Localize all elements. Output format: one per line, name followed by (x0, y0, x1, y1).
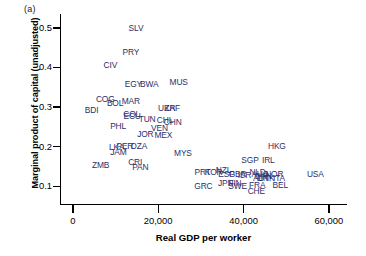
x-tick-label: 0 (70, 215, 75, 226)
data-point-label-jam: JAM (110, 148, 126, 156)
data-point-label-swe: SWE (228, 182, 247, 190)
data-point-label-pry: PRY (123, 47, 140, 55)
y-tick-label: 0.2 (0, 141, 52, 152)
data-point-label-mar: MAR (122, 97, 140, 105)
data-point-label-zmb: ZMB (92, 161, 109, 169)
data-point-label-grc: GRC (194, 182, 212, 190)
x-tick-label: 40,000 (229, 215, 258, 226)
data-point-label-bwa: BWA (140, 80, 158, 88)
data-point-label-dza: DZA (131, 142, 147, 150)
x-axis-line (60, 204, 347, 205)
data-point-label-civ: CIV (104, 61, 118, 69)
plot-area: SLVPRYCIVEGYBWAMUSCOGBOLMARBDIUKRZAFCOLE… (60, 14, 346, 204)
data-point-label-hkg: HKG (268, 142, 286, 150)
data-point-label-bdi: BDI (85, 106, 99, 114)
x-tick-label: 20,000 (144, 215, 173, 226)
x-tick-label: 60,000 (315, 215, 344, 226)
x-tick-mark (72, 205, 73, 213)
x-axis-title: Real GDP per worker (60, 232, 347, 243)
data-point-label-irl: IRL (262, 156, 275, 164)
data-point-label-mys: MYS (174, 149, 192, 157)
data-point-label-sgp: SGP (241, 156, 258, 164)
data-point-label-usa: USA (307, 170, 324, 178)
data-point-label-bel: BEL (273, 180, 288, 188)
data-point-label-che: CHE (248, 187, 265, 195)
data-point-label-phl: PHL (110, 121, 126, 129)
data-point-label-jor: JOR (137, 129, 153, 137)
data-point-label-slv: SLV (129, 24, 144, 32)
data-point-label-pan: PAN (132, 163, 148, 171)
data-point-label-bol: BOL (107, 99, 123, 107)
data-point-label-mus: MUS (170, 78, 188, 86)
data-point-label-zaf: ZAF (165, 104, 180, 112)
y-tick-label: 0.1 (0, 180, 52, 191)
y-tick-label: 0.5 (0, 22, 52, 33)
chart-figure: (a) Marginal product of capital (unadjus… (0, 0, 366, 256)
x-tick-mark (328, 205, 329, 213)
y-tick-label: 0.3 (0, 101, 52, 112)
y-tick-label: 0.4 (0, 61, 52, 72)
data-point-label-mex: MEX (154, 131, 172, 139)
x-tick-mark (158, 205, 159, 213)
x-tick-mark (243, 205, 244, 213)
